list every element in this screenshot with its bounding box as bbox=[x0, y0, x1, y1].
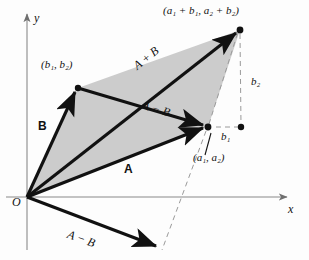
point-a-label: (a₁, a₂) bbox=[193, 152, 224, 163]
origin-label: O bbox=[12, 196, 21, 208]
point-b-label: (b₁, b₂) bbox=[41, 59, 72, 70]
vector-diagram: y x O (b₁, b₂) (a₁ + b₁, a₂ + b₂) (a₁, a… bbox=[0, 0, 309, 260]
dashed-a-to-diff-tip bbox=[162, 131, 206, 250]
point-sum-dot bbox=[237, 27, 244, 34]
point-a-dot bbox=[205, 124, 212, 131]
axis-label-x: x bbox=[288, 203, 293, 215]
axis-label-y: y bbox=[34, 12, 39, 24]
component-b1-label: b₁ bbox=[221, 131, 230, 142]
vector-b-label: B bbox=[38, 120, 47, 132]
dashed-b2-segment bbox=[240, 34, 241, 125]
point-sum-label: (a₁ + b₁, a₂ + b₂) bbox=[163, 5, 239, 16]
point-corner-dot bbox=[238, 124, 244, 130]
vector-a-label: A bbox=[124, 163, 133, 175]
point-b-dot bbox=[75, 85, 81, 91]
component-b2-label: b₂ bbox=[251, 76, 260, 87]
